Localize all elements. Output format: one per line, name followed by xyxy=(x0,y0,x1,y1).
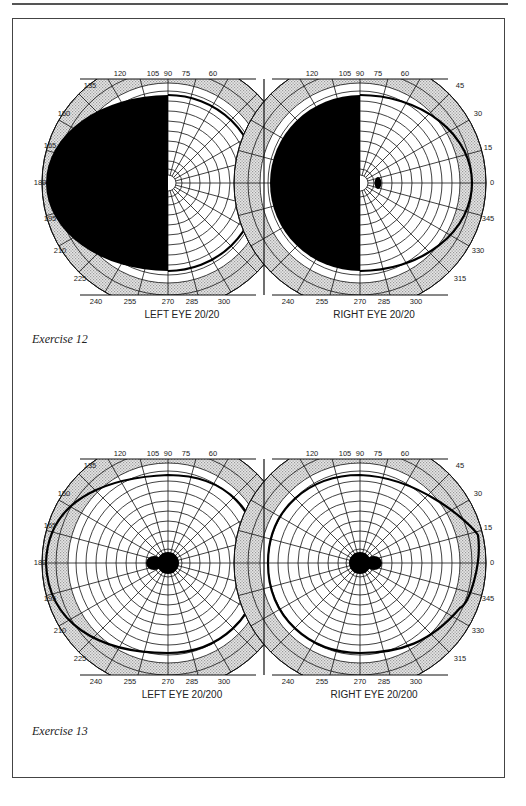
angle-tick-60: 60 xyxy=(401,449,409,458)
angle-tick-300: 300 xyxy=(218,297,231,306)
angle-tick-195: 195 xyxy=(44,594,57,603)
angle-tick-270: 270 xyxy=(354,297,367,306)
angle-tick-105: 105 xyxy=(147,449,160,458)
angle-tick-345: 345 xyxy=(482,214,495,223)
angle-tick-75: 75 xyxy=(182,449,190,458)
angle-tick-45: 45 xyxy=(456,81,464,90)
angle-tick-45: 45 xyxy=(456,461,464,470)
right-eye-chart-3: 1201059075604530150345330315240255270285… xyxy=(234,437,494,700)
angle-tick-300: 300 xyxy=(218,677,231,686)
angle-tick-120: 120 xyxy=(306,449,319,458)
angle-tick-210: 210 xyxy=(54,246,67,255)
angle-tick-90: 90 xyxy=(356,69,364,78)
angle-tick-90: 90 xyxy=(356,449,364,458)
angle-tick-210: 210 xyxy=(54,626,67,635)
angle-tick-150: 150 xyxy=(58,109,71,118)
angle-tick-105: 105 xyxy=(339,449,352,458)
angle-tick-330: 330 xyxy=(472,246,485,255)
angle-tick-60: 60 xyxy=(209,69,217,78)
angle-tick-315: 315 xyxy=(454,654,467,663)
exercise-13-caption: Exercise 13 xyxy=(32,724,88,739)
angle-tick-150: 150 xyxy=(58,489,71,498)
left-eye-label: LEFT EYE 20/200 xyxy=(142,689,223,700)
angle-tick-75: 75 xyxy=(182,69,190,78)
angle-tick-270: 270 xyxy=(162,297,175,306)
angle-tick-15: 15 xyxy=(484,143,492,152)
angle-tick-120: 120 xyxy=(306,69,319,78)
angle-tick-180: 180 xyxy=(34,178,47,187)
angle-tick-330: 330 xyxy=(472,626,485,635)
angle-tick-120: 120 xyxy=(114,69,127,78)
angle-tick-285: 285 xyxy=(378,677,391,686)
angle-tick-300: 300 xyxy=(410,677,423,686)
angle-tick-195: 195 xyxy=(44,214,57,223)
blind-spot xyxy=(146,556,162,570)
angle-tick-135: 135 xyxy=(84,81,97,90)
angle-tick-285: 285 xyxy=(186,297,199,306)
angle-tick-270: 270 xyxy=(354,677,367,686)
angle-tick-165: 165 xyxy=(44,141,57,150)
angle-tick-315: 315 xyxy=(454,274,467,283)
angle-tick-285: 285 xyxy=(186,677,199,686)
angle-tick-285: 285 xyxy=(378,297,391,306)
angle-tick-0: 0 xyxy=(490,558,494,567)
angle-tick-30: 30 xyxy=(474,489,482,498)
angle-tick-270: 270 xyxy=(162,677,175,686)
angle-tick-60: 60 xyxy=(209,449,217,458)
angle-tick-135: 135 xyxy=(84,461,97,470)
angle-tick-105: 105 xyxy=(339,69,352,78)
angle-tick-105: 105 xyxy=(147,69,160,78)
angle-tick-90: 90 xyxy=(164,69,172,78)
right-eye-label: RIGHT EYE 20/20 xyxy=(333,309,415,320)
visual-field-diagrams: 1201059075601351501651801952102252402552… xyxy=(0,0,526,806)
angle-tick-180: 180 xyxy=(34,558,47,567)
angle-tick-15: 15 xyxy=(484,523,492,532)
angle-tick-30: 30 xyxy=(474,109,482,118)
angle-tick-120: 120 xyxy=(114,449,127,458)
angle-tick-255: 255 xyxy=(316,297,329,306)
angle-tick-240: 240 xyxy=(90,297,103,306)
angle-tick-0: 0 xyxy=(490,178,494,187)
angle-tick-165: 165 xyxy=(44,521,57,530)
right-eye-chart-1: 1201059075604530150345330315240255270285… xyxy=(234,57,494,320)
angle-tick-75: 75 xyxy=(374,69,382,78)
angle-tick-75: 75 xyxy=(374,449,382,458)
angle-tick-255: 255 xyxy=(316,677,329,686)
angle-tick-300: 300 xyxy=(410,297,423,306)
angle-tick-240: 240 xyxy=(90,677,103,686)
angle-tick-240: 240 xyxy=(282,677,295,686)
angle-tick-255: 255 xyxy=(124,297,137,306)
blind-spot xyxy=(375,177,382,189)
left-eye-label: LEFT EYE 20/20 xyxy=(145,309,220,320)
right-eye-label: RIGHT EYE 20/200 xyxy=(330,689,418,700)
angle-tick-345: 345 xyxy=(482,594,495,603)
angle-tick-90: 90 xyxy=(164,449,172,458)
angle-tick-240: 240 xyxy=(282,297,295,306)
angle-tick-225: 225 xyxy=(74,274,87,283)
blind-spot xyxy=(366,556,382,570)
angle-tick-255: 255 xyxy=(124,677,137,686)
angle-tick-225: 225 xyxy=(74,654,87,663)
angle-tick-60: 60 xyxy=(401,69,409,78)
exercise-12-caption: Exercise 12 xyxy=(32,332,88,347)
